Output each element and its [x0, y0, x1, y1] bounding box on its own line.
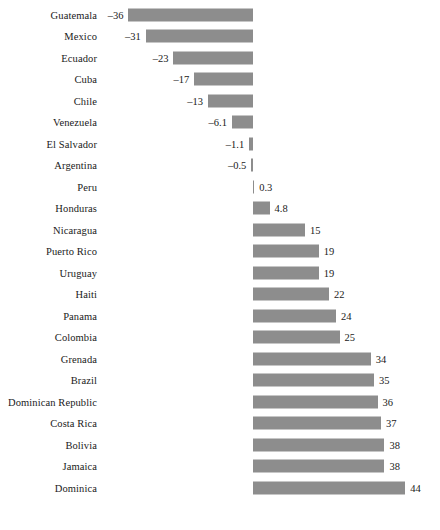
bar [208, 94, 253, 107]
plot-area: –31 [0, 26, 440, 48]
plot-area: 15 [0, 219, 440, 241]
chart-row: Honduras4.8 [0, 198, 440, 220]
plot-area: –1.1 [0, 133, 440, 155]
bar [253, 180, 254, 193]
bar [253, 266, 319, 279]
value-label: –1.1 [226, 138, 244, 149]
chart-row: Argentina–0.5 [0, 155, 440, 177]
value-label: 34 [376, 353, 387, 364]
chart-rows: Guatemala–36Mexico–31Ecuador–23Cuba–17Ch… [0, 4, 440, 499]
chart-row: Costa Rica37 [0, 413, 440, 435]
plot-area: 25 [0, 327, 440, 349]
chart-row: Panama24 [0, 305, 440, 327]
bar [253, 352, 371, 365]
bar [253, 481, 405, 494]
value-label: –17 [173, 74, 189, 85]
chart-row: Ecuador–23 [0, 47, 440, 69]
plot-area: 4.8 [0, 198, 440, 220]
plot-area: –36 [0, 4, 440, 26]
chart-row: Cuba–17 [0, 69, 440, 91]
plot-area: 36 [0, 391, 440, 413]
bar [194, 73, 253, 86]
value-label: 38 [389, 461, 400, 472]
bar [253, 202, 270, 215]
value-label: –23 [153, 52, 169, 63]
bar [253, 395, 378, 408]
plot-area: –13 [0, 90, 440, 112]
bar [128, 8, 253, 21]
value-label: 44 [410, 482, 421, 493]
value-label: –0.5 [228, 160, 246, 171]
chart-row: Puerto Rico19 [0, 241, 440, 263]
chart-row: Haiti22 [0, 284, 440, 306]
plot-area: 38 [0, 434, 440, 456]
chart-row: Colombia25 [0, 327, 440, 349]
plot-area: 22 [0, 284, 440, 306]
value-label: 19 [324, 246, 335, 257]
value-label: 0.3 [259, 181, 272, 192]
chart-row: Brazil35 [0, 370, 440, 392]
chart-row: Dominican Republic36 [0, 391, 440, 413]
bar [253, 309, 336, 322]
chart-row: Mexico–31 [0, 26, 440, 48]
value-label: 38 [389, 439, 400, 450]
plot-area: –0.5 [0, 155, 440, 177]
bar [253, 417, 381, 430]
chart-row: Chile–13 [0, 90, 440, 112]
value-label: 36 [383, 396, 394, 407]
chart-row: Jamaica38 [0, 456, 440, 478]
bar [253, 374, 374, 387]
plot-area: 19 [0, 262, 440, 284]
bar [173, 51, 253, 64]
chart-row: Dominica44 [0, 477, 440, 499]
bar [253, 245, 319, 258]
plot-area: 24 [0, 305, 440, 327]
bar [253, 438, 384, 451]
bar-chart: Guatemala–36Mexico–31Ecuador–23Cuba–17Ch… [0, 0, 440, 530]
bar [253, 460, 384, 473]
chart-row: Uruguay19 [0, 262, 440, 284]
bar [146, 30, 253, 43]
chart-row: El Salvador–1.1 [0, 133, 440, 155]
value-label: 35 [379, 375, 390, 386]
value-label: 19 [324, 267, 335, 278]
bar [249, 137, 253, 150]
bar [232, 116, 253, 129]
value-label: 4.8 [275, 203, 288, 214]
plot-area: 37 [0, 413, 440, 435]
plot-area: 44 [0, 477, 440, 499]
value-label: –36 [108, 9, 124, 20]
bar [251, 159, 253, 172]
plot-area: 0.3 [0, 176, 440, 198]
value-label: 37 [386, 418, 397, 429]
chart-row: Peru0.3 [0, 176, 440, 198]
plot-area: –23 [0, 47, 440, 69]
chart-row: Nicaragua15 [0, 219, 440, 241]
chart-row: Venezuela–6.1 [0, 112, 440, 134]
value-label: 22 [334, 289, 345, 300]
value-label: 25 [345, 332, 356, 343]
bar [253, 223, 305, 236]
chart-row: Grenada34 [0, 348, 440, 370]
chart-row: Bolivia38 [0, 434, 440, 456]
plot-area: 19 [0, 241, 440, 263]
bar [253, 288, 329, 301]
plot-area: –6.1 [0, 112, 440, 134]
plot-area: 38 [0, 456, 440, 478]
value-label: 24 [341, 310, 352, 321]
bar [253, 331, 340, 344]
plot-area: –17 [0, 69, 440, 91]
value-label: 15 [310, 224, 321, 235]
value-label: –31 [125, 31, 141, 42]
value-label: –6.1 [209, 117, 227, 128]
chart-row: Guatemala–36 [0, 4, 440, 26]
plot-area: 35 [0, 370, 440, 392]
plot-area: 34 [0, 348, 440, 370]
value-label: –13 [187, 95, 203, 106]
